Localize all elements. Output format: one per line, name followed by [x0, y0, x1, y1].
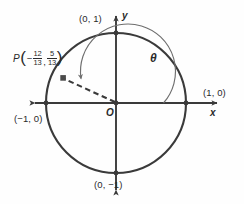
label-y-axis: y	[122, 11, 128, 21]
intercept-dot-left	[44, 101, 49, 106]
intercept-dot-bottom	[114, 171, 119, 176]
label-bottom-intercept: (0, −1)	[94, 180, 122, 190]
terminal-ray	[65, 79, 116, 102]
unit-circle-figure: (0, 1) y (1, 0) x (−1, 0) (0, −1) O θ P …	[0, 0, 244, 204]
label-x-axis: x	[210, 108, 216, 118]
point-name: P	[13, 53, 20, 64]
label-right-intercept: (1, 0)	[203, 88, 226, 98]
label-top-intercept: (0, 1)	[79, 14, 102, 24]
point-y-numerator: 5	[49, 50, 54, 58]
point-x-denominator: 13	[33, 58, 42, 67]
point-y-denominator: 13	[47, 58, 56, 67]
origin-dot	[114, 101, 119, 106]
label-origin: O	[106, 108, 114, 118]
point-separator: ,	[43, 56, 46, 67]
label-left-intercept: (−1, 0)	[14, 114, 42, 124]
label-point-p: P ( − 12 13 , 5 13 )	[13, 50, 62, 67]
point-x-fraction: 12 13	[33, 50, 42, 67]
point-y-fraction: 5 13	[47, 50, 56, 67]
point-x-numerator: 12	[33, 50, 42, 58]
label-theta: θ	[150, 52, 157, 64]
point-x-sign: −	[27, 53, 33, 64]
point-p-marker	[60, 75, 66, 81]
intercept-dot-top	[114, 31, 119, 36]
intercept-dot-right	[184, 101, 189, 106]
figure-canvas	[0, 0, 244, 204]
